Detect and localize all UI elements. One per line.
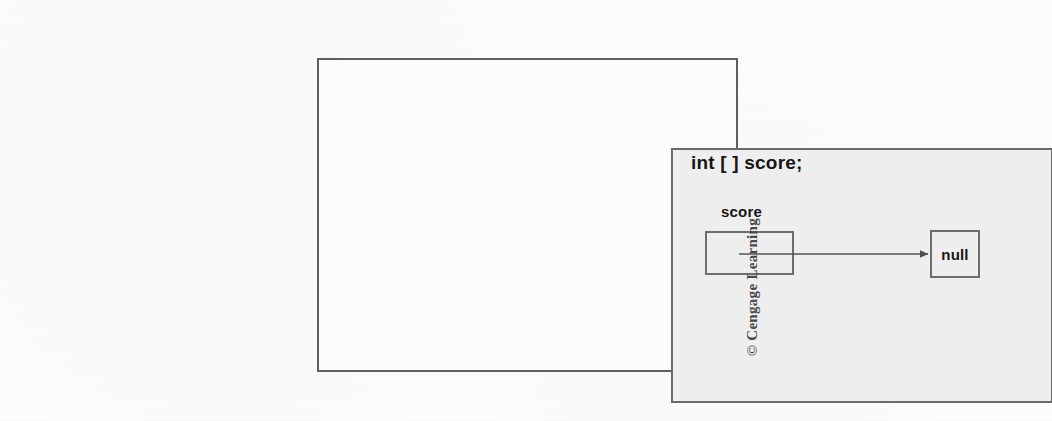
null-value-label: null <box>941 246 968 263</box>
null-value-box: null <box>930 230 980 278</box>
outer-frame: int [ ] score; score null <box>317 58 738 372</box>
reference-arrow-icon <box>739 238 939 270</box>
figure-canvas: int [ ] score; score null © Cengage Lear… <box>0 0 1052 421</box>
copyright-credit: © Cengage Learning <box>744 218 761 356</box>
inner-memory-frame <box>671 148 1052 403</box>
array-declaration-text: int [ ] score; <box>691 152 803 174</box>
